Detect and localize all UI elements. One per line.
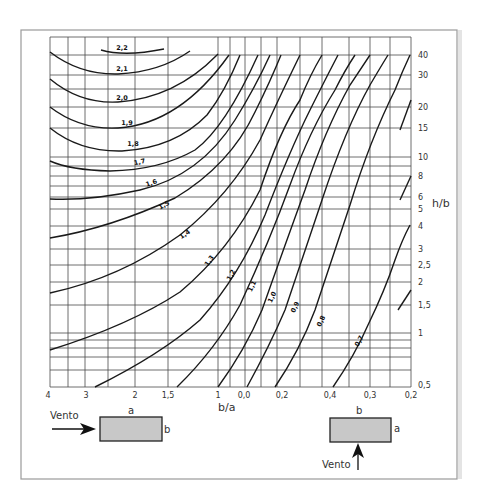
x-tick-label: 2 — [132, 391, 137, 400]
x-tick-label: 0,0 — [238, 391, 251, 400]
wind-diagram-left: Vento a b — [50, 405, 170, 441]
y-tick-label: 15 — [418, 124, 428, 133]
y-axis-ticks: 4030201510865432,521,510,5 — [418, 51, 431, 390]
y-tick-label: 8 — [418, 172, 423, 181]
y-tick-label: 4 — [418, 222, 423, 231]
dim-label-a-left: a — [128, 405, 134, 416]
dim-label-a-right: a — [394, 423, 400, 434]
dim-label-b-left: b — [164, 424, 170, 435]
curve-label: 1,6 — [145, 177, 159, 188]
y-axis-label: h/b — [432, 197, 450, 210]
chart-figure: 2,22,12,01,91,81,71,61,51,41,31,21,11,00… — [0, 0, 481, 499]
curve-1-1 — [177, 55, 355, 387]
y-tick-label: 1,5 — [418, 301, 431, 310]
x-axis-label: b/a — [218, 401, 235, 414]
curve-label: 1,2 — [225, 268, 237, 282]
x-tick-label: 1,5 — [162, 391, 175, 400]
y-tick-label: 2 — [418, 278, 423, 287]
y-tick-label: 1 — [418, 329, 423, 338]
curve-2-0 — [50, 55, 217, 102]
curve-1-7 — [50, 55, 258, 171]
y-tick-label: 0,5 — [418, 381, 431, 390]
frame-shadow — [458, 30, 462, 479]
x-tick-label: 0,3 — [364, 391, 377, 400]
x-tick-label: 1 — [215, 391, 220, 400]
curve-2-0b — [217, 54, 218, 55]
curve-label: 1,1 — [246, 279, 258, 293]
building-plan-left — [100, 417, 162, 441]
y-tick-label: 5 — [418, 205, 423, 214]
curve-label: 1,9 — [121, 119, 133, 127]
y-tick-label: 10 — [418, 153, 428, 162]
curve-label: 2,1 — [116, 65, 128, 73]
curve-1-8 — [50, 55, 240, 151]
plot-grid — [50, 37, 411, 387]
dim-label-b-right: b — [356, 405, 362, 416]
wind-label-left: Vento — [50, 410, 79, 421]
y-tick-label: 2,5 — [418, 261, 431, 270]
y-tick-label: 40 — [418, 51, 428, 60]
curve-1-0 — [218, 55, 370, 387]
wind-label-right: Vento — [322, 459, 351, 470]
curve-label: 1,3 — [203, 254, 216, 268]
curve-0-7b — [398, 290, 411, 310]
x-tick-label: 3 — [83, 391, 88, 400]
x-tick-label: 4 — [45, 391, 50, 400]
curve-1-9 — [50, 55, 229, 128]
building-plan-right — [330, 418, 391, 442]
y-tick-label: 20 — [418, 103, 428, 112]
curve-1-4 — [50, 55, 300, 293]
curve-label: 2,0 — [116, 94, 128, 102]
curve-0-8-upper — [400, 100, 411, 130]
x-axis-ticks: 4321,510,00,20,40,30,2 — [45, 391, 417, 400]
curve-1-2 — [95, 55, 338, 387]
curve-0-9 — [247, 55, 388, 387]
curve-0-7-upper — [400, 176, 411, 200]
curve-1-6 — [50, 55, 270, 199]
y-tick-label: 3 — [418, 245, 423, 254]
x-tick-label: 0,4 — [324, 391, 337, 400]
curve-label: 1,8 — [127, 140, 139, 148]
x-tick-label: 0,2 — [276, 391, 289, 400]
x-tick-label: 0,2 — [405, 391, 418, 400]
curve-2-2 — [101, 49, 164, 53]
curve-label: 1,4 — [178, 228, 192, 241]
curve-label: 0,8 — [315, 314, 327, 328]
y-tick-label: 6 — [418, 193, 423, 202]
y-tick-label: 30 — [418, 71, 428, 80]
curve-label: 2,2 — [116, 44, 128, 52]
wind-diagram-right: b a Vento — [322, 405, 400, 470]
